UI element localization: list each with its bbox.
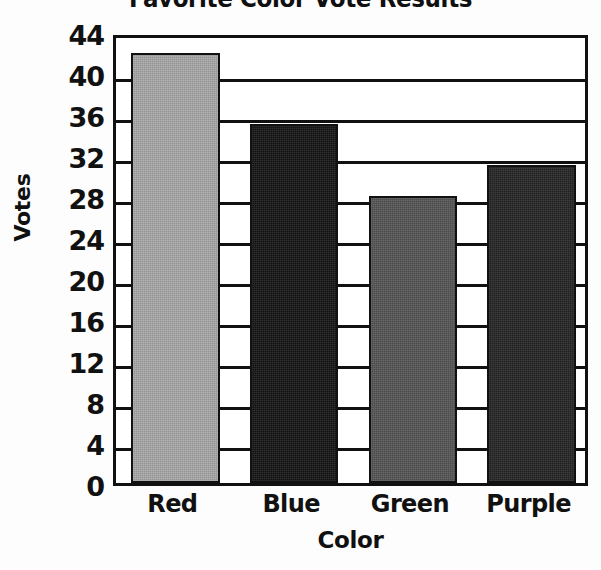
x-axis-tick-labels: RedBlueGreenPurple [113, 490, 588, 524]
y-axis-tick-label: 20 [0, 268, 104, 295]
bars-layer [116, 38, 585, 483]
bar-green[interactable] [369, 196, 457, 483]
y-axis-tick-label: 28 [0, 186, 104, 213]
y-axis-tick-label: 24 [0, 227, 104, 254]
x-axis-tick-label-red: Red [147, 490, 197, 518]
bar-chart: Favorite Color Vote Results Votes 444036… [0, 0, 601, 570]
y-axis-tick-label: 8 [0, 391, 104, 418]
y-axis-tick-label: 0 [0, 473, 104, 500]
bar-red[interactable] [131, 53, 219, 484]
bar-purple[interactable] [487, 165, 575, 483]
plot-area [113, 35, 588, 486]
bar-blue[interactable] [250, 124, 338, 483]
y-axis-tick-label: 44 [0, 22, 104, 49]
x-axis-tick-label-blue: Blue [262, 490, 319, 518]
x-axis-tick-label-green: Green [371, 490, 449, 518]
x-axis-tick-label-purple: Purple [486, 490, 571, 518]
y-axis-tick-label: 4 [0, 432, 104, 459]
y-axis-tick-labels: 444036322824201612840 [0, 35, 104, 486]
x-axis-title: Color [113, 527, 588, 553]
y-axis-tick-label: 36 [0, 104, 104, 131]
y-axis-tick-label: 16 [0, 309, 104, 336]
y-axis-tick-label: 12 [0, 350, 104, 377]
chart-title: Favorite Color Vote Results [24, 0, 577, 13]
y-axis-tick-label: 32 [0, 145, 104, 172]
y-axis-tick-label: 40 [0, 63, 104, 90]
